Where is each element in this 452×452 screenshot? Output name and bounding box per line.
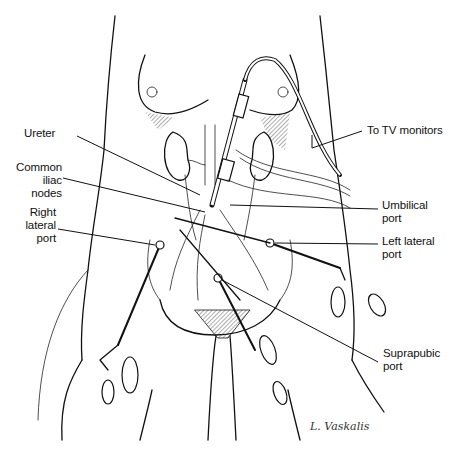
label-line: port [382, 248, 435, 261]
chest [138, 55, 298, 150]
label-to-tv-monitors: To TV monitors [367, 124, 443, 137]
pelvis [148, 240, 293, 338]
label-line: port [383, 360, 440, 373]
label-line: port [16, 232, 56, 245]
label-ureter: Ureter [24, 127, 55, 140]
label-suprapubic-port: Suprapubic port [383, 347, 440, 373]
anatomical-illustration [0, 0, 452, 452]
label-line: nodes [16, 187, 62, 200]
artist-signature: L. Vaskalis [310, 420, 369, 433]
label-line: Suprapubic [383, 347, 440, 360]
label-line: lateral [16, 219, 56, 232]
label-common-iliac-nodes: Common iliac nodes [16, 161, 62, 200]
label-line: Right [16, 206, 56, 219]
label-line: port [382, 212, 428, 225]
right-lateral-instrument [100, 241, 164, 404]
label-line: Umbilical [382, 199, 428, 212]
label-line: Common [16, 161, 62, 174]
label-left-lateral-port: Left lateral port [382, 235, 435, 261]
label-umbilical-port: Umbilical port [382, 199, 428, 225]
label-line: Left lateral [382, 235, 435, 248]
label-right-lateral-port: Right lateral port [16, 206, 56, 245]
left-lateral-instrument [175, 218, 389, 319]
label-line: iliac [16, 174, 62, 187]
